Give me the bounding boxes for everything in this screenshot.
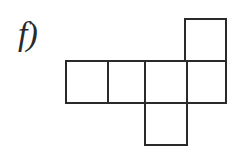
row-square-4 — [187, 61, 226, 103]
row-square-1 — [66, 61, 108, 103]
net-cell-group — [66, 19, 226, 145]
row-square-2 — [108, 61, 150, 103]
row-square-3 — [145, 61, 187, 103]
figure-canvas: f) — [0, 0, 237, 155]
top-square — [185, 19, 226, 61]
bottom-square — [145, 103, 187, 145]
cube-net-diagram — [0, 0, 237, 155]
